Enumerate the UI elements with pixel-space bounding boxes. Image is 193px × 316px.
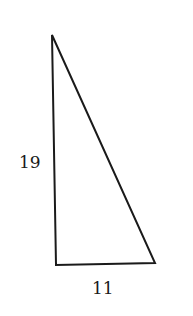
right-triangle	[52, 35, 155, 265]
triangle-diagram: 19 11	[0, 0, 193, 316]
vertical-side-label: 19	[19, 152, 41, 172]
horizontal-side-label: 11	[92, 278, 114, 298]
